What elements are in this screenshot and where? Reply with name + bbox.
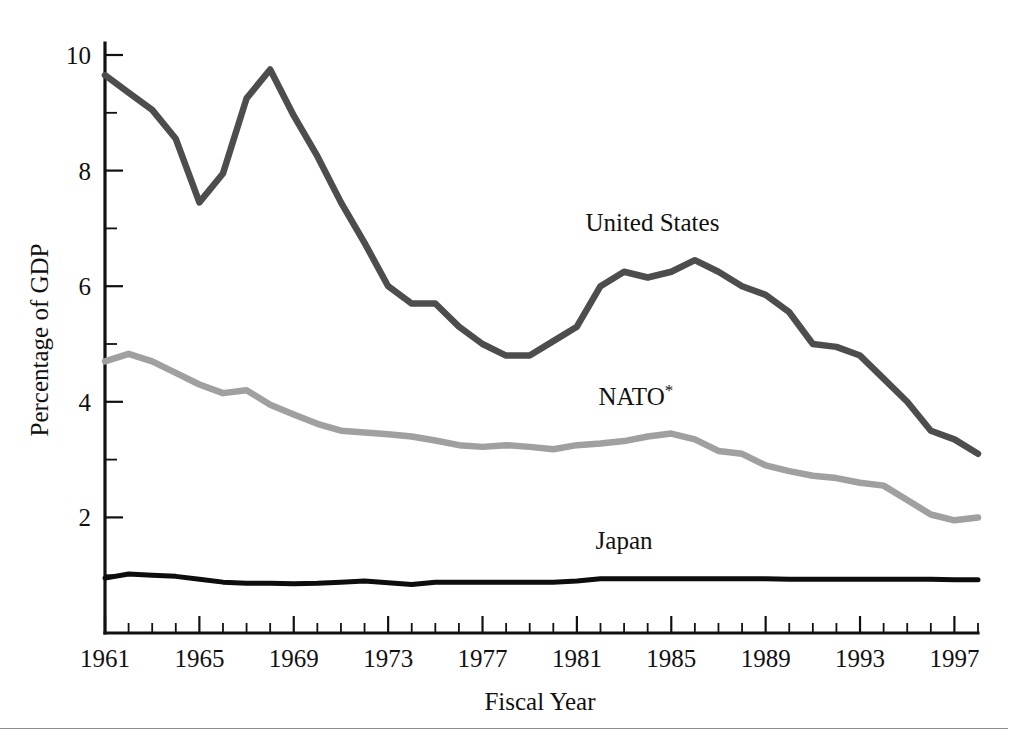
y-tick-label: 6 — [79, 273, 92, 300]
series-line-united-states — [105, 69, 978, 453]
y-tick-label: 8 — [79, 158, 92, 185]
x-tick-label: 1997 — [929, 645, 979, 672]
y-axis-ticks — [105, 55, 123, 575]
series-line-nato — [105, 354, 978, 520]
y-axis-title: Percentage of GDP — [26, 244, 53, 437]
y-tick-label: 4 — [79, 389, 92, 416]
x-axis-ticks — [105, 616, 978, 633]
x-axis-tick-labels: 1961196519691973197719811985198919931997 — [80, 645, 979, 672]
x-tick-label: 1969 — [269, 645, 319, 672]
x-axis-title: Fiscal Year — [484, 688, 596, 715]
x-tick-label: 1993 — [835, 645, 885, 672]
figure-container: Percentage of GDP 246810 196119651969197… — [0, 0, 1010, 741]
x-tick-label: 1961 — [80, 645, 130, 672]
series-line-japan — [105, 574, 978, 584]
y-tick-label: 10 — [66, 42, 91, 69]
line-chart: Percentage of GDP 246810 196119651969197… — [0, 0, 1010, 741]
series-lines — [105, 69, 978, 584]
series-label-japan: Japan — [596, 527, 653, 554]
y-axis-tick-labels: 246810 — [66, 42, 92, 531]
x-tick-label: 1989 — [741, 645, 791, 672]
series-label-nato: NATO* — [599, 381, 674, 410]
footer-divider — [0, 728, 1008, 729]
x-tick-label: 1985 — [646, 645, 696, 672]
footnote-marker: * — [665, 381, 674, 400]
x-tick-label: 1965 — [174, 645, 224, 672]
x-tick-label: 1973 — [363, 645, 413, 672]
x-tick-label: 1981 — [552, 645, 602, 672]
x-tick-label: 1977 — [458, 645, 508, 672]
series-label-united-states: United States — [585, 209, 719, 236]
y-tick-label: 2 — [79, 504, 92, 531]
